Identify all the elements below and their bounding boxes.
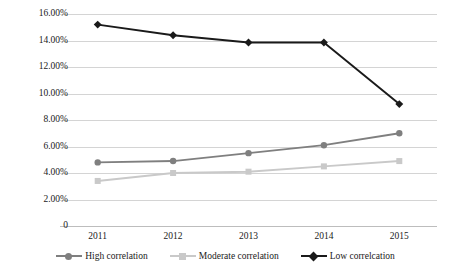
data-point-marker [396, 158, 402, 164]
x-axis-tick-label: 2015 [369, 231, 429, 241]
y-axis-tick-label: 12.00% [22, 62, 68, 71]
data-point-marker [321, 163, 327, 169]
x-axis-tick-label: 2014 [294, 231, 354, 241]
data-point-marker [95, 178, 101, 184]
line-chart: 16.00%14.00%12.00%10.00%8.00%6.00%4.00%2… [0, 0, 451, 280]
legend-label: High correlation [85, 251, 148, 261]
x-axis-tick-label: 2012 [143, 231, 203, 241]
data-point-marker [321, 142, 327, 148]
y-axis-tick-label: 0 [22, 221, 68, 230]
data-point-marker [95, 159, 101, 165]
series-line [98, 25, 400, 105]
legend-swatch-icon [56, 251, 82, 261]
data-point-marker [245, 39, 253, 47]
y-axis-tick-label: 16.00% [22, 9, 68, 18]
y-axis-tick-label: 8.00% [22, 115, 68, 124]
series-line [98, 133, 400, 162]
data-point-marker [170, 170, 176, 176]
x-axis-tick-label: 2013 [219, 231, 279, 241]
legend-label: Low correlcation [330, 251, 395, 261]
x-axis-tick-label: 2011 [68, 231, 128, 241]
data-point-marker [94, 21, 102, 29]
data-point-marker [169, 31, 177, 39]
y-axis-tick-label: 14.00% [22, 36, 68, 45]
y-axis-tick-label: 2.00% [22, 195, 68, 204]
data-point-marker [396, 130, 402, 136]
legend-swatch-icon [170, 251, 196, 261]
legend-swatch-icon [301, 251, 327, 261]
data-point-marker [245, 150, 251, 156]
legend-item[interactable]: Moderate correlation [170, 251, 279, 261]
y-axis-tick-label: 4.00% [22, 168, 68, 177]
legend: High correlationModerate correlationLow … [0, 251, 451, 261]
legend-item[interactable]: High correlation [56, 251, 148, 261]
axis-baseline [60, 226, 437, 227]
y-axis-tick-label: 10.00% [22, 89, 68, 98]
data-point-marker [246, 169, 252, 175]
legend-label: Moderate correlation [199, 251, 279, 261]
data-point-marker [170, 158, 176, 164]
y-axis-tick-label: 6.00% [22, 142, 68, 151]
series-layer [60, 14, 437, 226]
legend-item[interactable]: Low correlcation [301, 251, 395, 261]
